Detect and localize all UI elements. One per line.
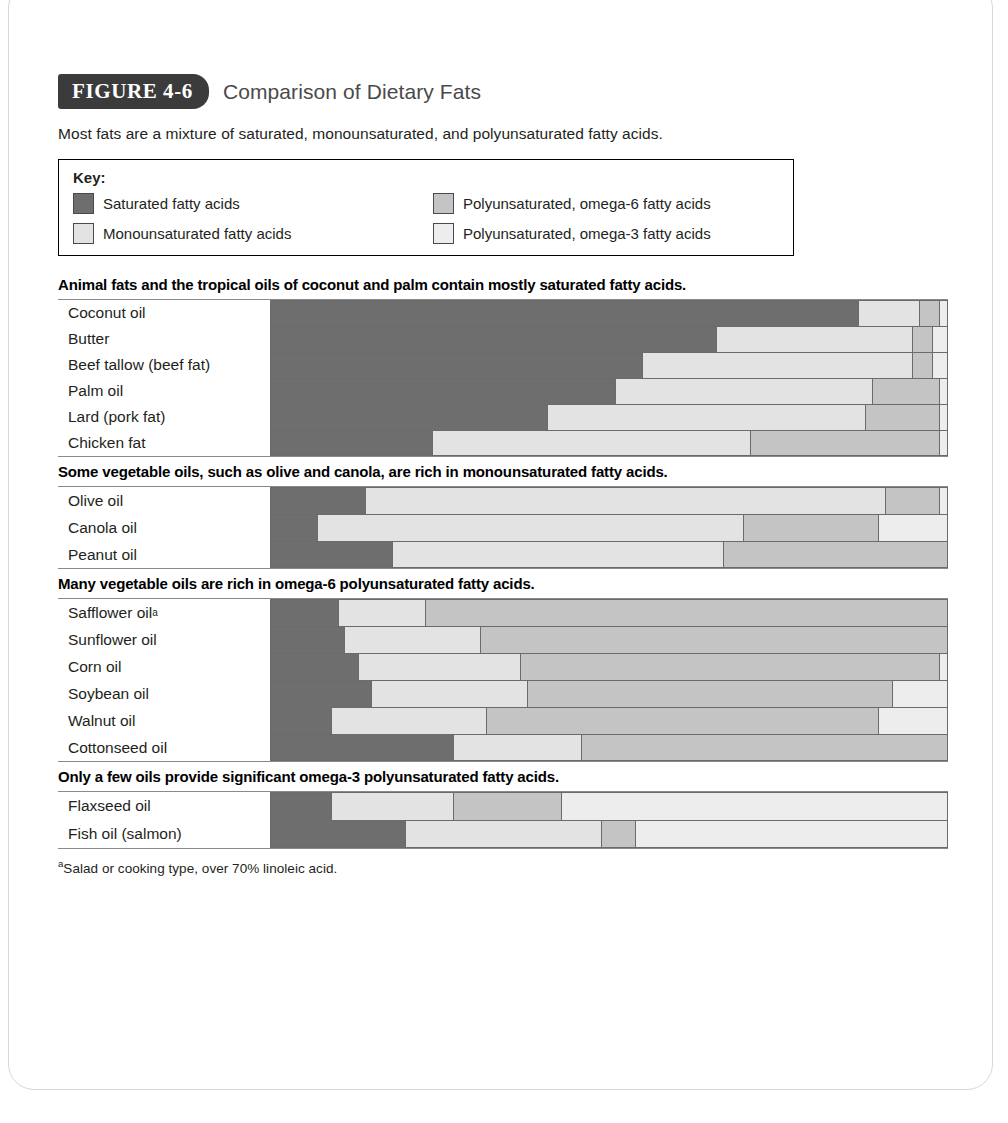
bar-segment-omega3 [562,793,947,820]
chart-row-label: Fish oil (salmon) [58,820,270,848]
bar-segment-saturated [271,405,548,430]
chart-group-heading: Animal fats and the tropical oils of coc… [58,276,948,293]
bar-segment-omega3 [940,654,947,680]
chart-group-4: Only a few oils provide significant omeg… [58,768,948,849]
chart-row-label: Olive oil [58,487,270,514]
bar-segment-monounsaturated [339,600,427,626]
chart-row-label: Sunflower oil [58,626,270,653]
bar-segment-saturated [271,327,717,352]
bar-segment-monounsaturated [406,821,602,847]
stacked-bar [270,820,948,848]
bar-segment-monounsaturated [332,708,487,734]
bar-segment-saturated [271,353,643,378]
bar-segment-omega3 [933,327,947,352]
chart-row-label: Butter [58,326,270,352]
legend-label-monounsaturated: Monounsaturated fatty acids [103,225,291,242]
stacked-bar [270,680,948,707]
legend-swatch-omega6 [433,193,454,214]
chart-row: Cottonseed oil [58,734,948,761]
chart-group-3: Many vegetable oils are rich in omega-6 … [58,575,948,762]
bar-segment-omega6 [724,542,947,567]
chart-row-label: Peanut oil [58,541,270,568]
bar-segment-omega3 [893,681,947,707]
legend-swatch-saturated [73,193,94,214]
bar-segment-omega6 [744,515,879,541]
bar-segment-omega6 [426,600,947,626]
bar-segment-omega3 [933,353,947,378]
chart-row-label: Soybean oil [58,680,270,707]
bar-segment-omega3 [940,488,947,514]
bar-segment-omega6 [582,735,947,760]
bar-segment-omega3 [940,301,947,326]
bar-segment-saturated [271,821,406,847]
legend-swatch-monounsaturated [73,223,94,244]
figure-title: Comparison of Dietary Fats [223,80,481,104]
chart-row: Sunflower oil [58,626,948,653]
bar-segment-omega6 [913,327,933,352]
chart-row-label: Corn oil [58,653,270,680]
chart-row: Coconut oil [58,300,948,326]
chart-row-label: Lard (pork fat) [58,404,270,430]
chart-row: Safflower oila [58,599,948,626]
legend-grid: Saturated fatty acids Polyunsaturated, o… [73,193,779,244]
bar-segment-saturated [271,431,433,455]
bar-segment-saturated [271,301,859,326]
bar-segment-monounsaturated [366,488,887,514]
figure-header: FIGURE 4-6 Comparison of Dietary Fats [58,74,948,109]
legend-title: Key: [73,169,779,186]
stacked-bar [270,626,948,653]
bar-segment-monounsaturated [643,353,913,378]
bar-segment-monounsaturated [454,735,582,760]
chart-row-label: Flaxseed oil [58,792,270,820]
bar-segment-saturated [271,654,359,680]
chart-group-2: Some vegetable oils, such as olive and c… [58,463,948,569]
legend-key-box: Key: Saturated fatty acids Polyunsaturat… [58,159,794,256]
chart-row-label: Beef tallow (beef fat) [58,352,270,378]
legend-item-omega3: Polyunsaturated, omega-3 fatty acids [433,223,779,244]
bar-segment-omega6 [886,488,940,514]
bar-segment-saturated [271,488,366,514]
stacked-bar [270,734,948,761]
bar-segment-monounsaturated [372,681,527,707]
figure-footnote: aSalad or cooking type, over 70% linolei… [58,858,948,876]
chart-row: Palm oil [58,378,948,404]
bar-segment-monounsaturated [717,327,913,352]
legend-item-monounsaturated: Monounsaturated fatty acids [73,223,433,244]
footnote-text: Salad or cooking type, over 70% linoleic… [63,861,337,876]
stacked-bar [270,300,948,326]
bar-segment-omega3 [940,405,947,430]
chart-row: Butter [58,326,948,352]
figure-subtitle: Most fats are a mixture of saturated, mo… [58,125,948,143]
chart-groups: Animal fats and the tropical oils of coc… [58,276,948,849]
chart-row: Walnut oil [58,707,948,734]
bar-segment-omega6 [751,431,940,455]
chart-rows: Safflower oilaSunflower oilCorn oilSoybe… [58,598,948,762]
chart-row: Flaxseed oil [58,792,948,820]
figure-container: FIGURE 4-6 Comparison of Dietary Fats Mo… [58,74,948,876]
bar-segment-omega6 [913,353,933,378]
bar-segment-omega6 [521,654,940,680]
chart-row: Canola oil [58,514,948,541]
bar-segment-saturated [271,542,393,567]
stacked-bar [270,378,948,404]
chart-group-1: Animal fats and the tropical oils of coc… [58,276,948,457]
bar-segment-omega6 [873,379,941,404]
bar-segment-saturated [271,515,318,541]
chart-row: Fish oil (salmon) [58,820,948,848]
bar-segment-omega3 [940,379,947,404]
stacked-bar [270,430,948,456]
bar-segment-saturated [271,379,616,404]
bar-segment-monounsaturated [859,301,920,326]
chart-row: Peanut oil [58,541,948,568]
legend-label-omega6: Polyunsaturated, omega-6 fatty acids [463,195,711,212]
chart-row-label: Canola oil [58,514,270,541]
bar-segment-omega3 [879,708,947,734]
bar-segment-omega6 [920,301,940,326]
bar-segment-omega3 [636,821,947,847]
bar-segment-omega3 [879,515,947,541]
bar-segment-saturated [271,735,454,760]
bar-segment-omega6 [481,627,947,653]
bar-segment-omega6 [454,793,562,820]
bar-segment-saturated [271,600,339,626]
bar-segment-monounsaturated [359,654,521,680]
